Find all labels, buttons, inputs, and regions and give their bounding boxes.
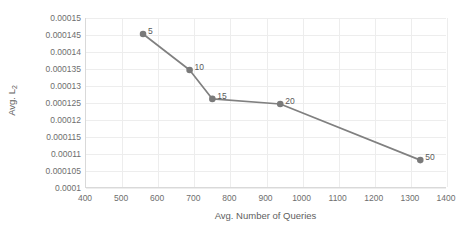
data-point-label: 20 xyxy=(285,96,294,106)
y-axis-title: Avg. L2 xyxy=(6,56,17,146)
data-point-label: 15 xyxy=(217,91,226,101)
y-axis-title-base: Avg. L xyxy=(6,89,17,116)
data-point-label: 50 xyxy=(425,152,434,162)
data-point-labels: 510152050 xyxy=(0,0,476,232)
x-axis-title: Avg. Number of Queries xyxy=(85,210,446,221)
chart-container: 0.00010.0001050.000110.0001150.000120.00… xyxy=(0,0,476,232)
data-point-label: 10 xyxy=(195,62,204,72)
data-point-label: 5 xyxy=(148,26,153,36)
y-axis-title-subscript: 2 xyxy=(11,85,18,89)
